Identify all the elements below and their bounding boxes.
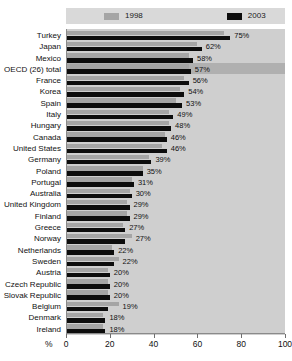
bar-1998 xyxy=(66,290,108,294)
bar-1998 xyxy=(66,324,103,328)
bar-1998 xyxy=(66,31,224,35)
bar-value-label: 18% xyxy=(109,313,124,322)
bar-1998 xyxy=(66,166,143,170)
bar-value-label: 30% xyxy=(136,189,151,198)
plot-area: 75%62%58%57%56%54%53%49%48%46%46%39%35%3… xyxy=(66,29,285,334)
bar-1998 xyxy=(66,313,103,317)
axis-tick-100 xyxy=(285,334,286,338)
bar-value-label: 19% xyxy=(123,302,138,311)
bar-value-label: 39% xyxy=(155,155,170,164)
bar-1998 xyxy=(66,257,119,261)
axis-tick-label: 80 xyxy=(236,339,245,350)
bar-value-label: 75% xyxy=(234,31,249,40)
bar-value-label: 27% xyxy=(136,234,151,243)
legend-swatch-1998-icon xyxy=(104,13,119,20)
bar-1998 xyxy=(66,144,162,148)
value-axis: % 020406080100 xyxy=(0,334,292,361)
bar-1998 xyxy=(66,76,184,80)
bar-1998 xyxy=(66,87,180,91)
bar-value-label: 29% xyxy=(134,212,149,221)
category-axis-labels: TurkeyJapanMexicoOECD (26) totalFranceKo… xyxy=(0,29,64,334)
bar-value-label: 22% xyxy=(123,257,138,266)
bar-value-label: 48% xyxy=(175,121,190,130)
bar-1998 xyxy=(66,98,176,102)
bar-value-label: 20% xyxy=(114,268,129,277)
bar-1998 xyxy=(66,42,197,46)
axis-tick-label: 100 xyxy=(278,339,292,350)
bar-1998 xyxy=(66,279,108,283)
axis-tick-20 xyxy=(110,334,111,338)
bar-1998 xyxy=(66,211,127,215)
bar-1998 xyxy=(66,64,189,68)
axis-tick-label: 60 xyxy=(193,339,202,350)
gridline-100 xyxy=(285,29,286,334)
legend-item-1998: 1998 xyxy=(104,12,143,20)
bar-value-label: 58% xyxy=(197,54,212,63)
bar-value-label: 22% xyxy=(118,246,133,255)
bar-value-label: 27% xyxy=(129,223,144,232)
bar-value-label: 20% xyxy=(114,291,129,300)
axis-tick-label: 20 xyxy=(105,339,114,350)
bar-1998 xyxy=(66,234,132,238)
bar-1998 xyxy=(66,132,165,136)
bar-1998 xyxy=(66,155,149,159)
bar-1998 xyxy=(66,110,169,114)
bar-1998 xyxy=(66,121,169,125)
axis-tick-60 xyxy=(197,334,198,338)
bar-value-label: 53% xyxy=(186,99,201,108)
legend-swatch-2003-icon xyxy=(227,13,242,20)
legend-label-1998: 1998 xyxy=(125,12,143,20)
bar-value-label: 57% xyxy=(195,65,210,74)
axis-tick-label: 0 xyxy=(64,339,69,350)
bar-value-label: 54% xyxy=(188,87,203,96)
bar-1998 xyxy=(66,245,112,249)
bar-value-label: 31% xyxy=(138,178,153,187)
bar-1998 xyxy=(66,177,132,181)
bar-value-label: 46% xyxy=(171,133,186,142)
bar-value-label: 56% xyxy=(193,76,208,85)
bar-1998 xyxy=(66,53,189,57)
bar-1998 xyxy=(66,268,108,272)
bar-1998 xyxy=(66,223,123,227)
legend-item-2003: 2003 xyxy=(227,12,266,20)
bar-value-label: 49% xyxy=(177,110,192,119)
bar-value-label: 29% xyxy=(134,200,149,209)
axis-tick-40 xyxy=(154,334,155,338)
bar-1998 xyxy=(66,302,119,306)
axis-tick-label: 40 xyxy=(149,339,158,350)
bar-1998 xyxy=(66,189,130,193)
axis-tick-80 xyxy=(241,334,242,338)
bar-value-label: 62% xyxy=(206,42,221,51)
bar-value-label: 20% xyxy=(114,280,129,289)
chart-legend: 1998 2003 xyxy=(66,8,285,24)
axis-unit-label: % xyxy=(45,339,53,350)
bar-1998 xyxy=(66,200,127,204)
legend-label-2003: 2003 xyxy=(248,12,266,20)
bar-value-label: 35% xyxy=(147,167,162,176)
bar-chart: 1998 2003 TurkeyJapanMexicoOECD (26) tot… xyxy=(0,0,292,361)
bar-value-label: 46% xyxy=(171,144,186,153)
bar-value-label: 18% xyxy=(109,325,124,334)
axis-tick-0 xyxy=(66,334,67,338)
